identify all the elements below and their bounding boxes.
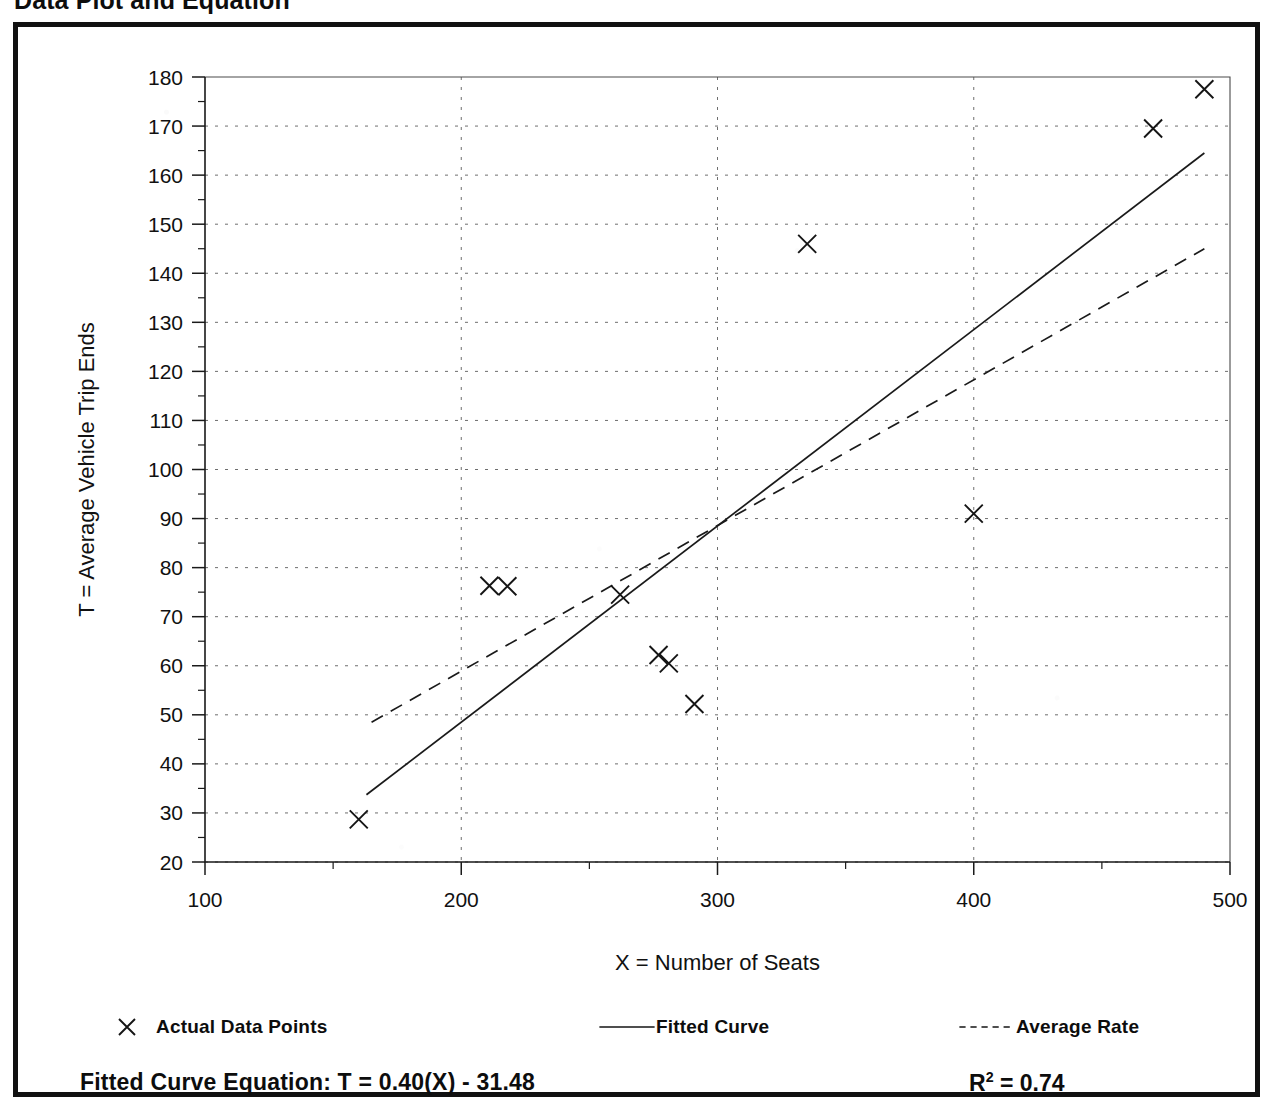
series-line <box>372 249 1205 722</box>
data-point-marker <box>798 235 816 253</box>
y-tick-label: 50 <box>160 703 183 726</box>
y-tick-label: 40 <box>160 752 183 775</box>
scatter-plot-canvas: 2030405060708090100110120130140150160170… <box>18 27 1255 1012</box>
y-tick-label: 20 <box>160 851 183 874</box>
x-tick-label: 300 <box>700 888 735 911</box>
horizontal-gridlines <box>205 126 1230 862</box>
data-point-marker <box>1144 120 1162 138</box>
legend-label-fitted-curve: Fitted Curve <box>656 1016 769 1038</box>
fitted-curve-equation-text: Fitted Curve Equation: T = 0.40(X) - 31.… <box>80 1069 535 1096</box>
legend-item-actual-data-points: Actual Data Points <box>98 1005 327 1049</box>
legend-label-actual-data-points: Actual Data Points <box>156 1016 327 1038</box>
chart-legend: Actual Data Points Fitted Curve Average … <box>18 1005 1255 1049</box>
y-axis-tick-labels: 2030405060708090100110120130140150160170… <box>148 66 183 874</box>
data-point-marker <box>350 810 368 828</box>
y-tick-label: 170 <box>148 115 183 138</box>
data-point-marker <box>685 695 703 713</box>
x-axis-title: X = Number of Seats <box>615 950 820 975</box>
page-title: Data Plot and Equation <box>14 0 290 15</box>
legend-label-average-rate: Average Rate <box>1016 1016 1139 1038</box>
solid-line-icon <box>598 1020 656 1034</box>
x-axis-tick-labels: 100200300400500 <box>187 888 1247 911</box>
y-tick-label: 120 <box>148 360 183 383</box>
dashed-line-icon <box>958 1020 1016 1034</box>
x-tick-label: 500 <box>1212 888 1247 911</box>
x-tick-label: 200 <box>444 888 479 911</box>
data-point-marker <box>498 577 516 595</box>
y-axis-title: T = Average Vehicle Trip Ends <box>74 322 99 617</box>
y-tick-label: 30 <box>160 801 183 824</box>
y-tick-label: 130 <box>148 311 183 334</box>
figure-frame: 2030405060708090100110120130140150160170… <box>13 22 1260 1097</box>
y-tick-label: 160 <box>148 164 183 187</box>
legend-item-average-rate: Average Rate <box>958 1005 1139 1049</box>
x-axis-ticks <box>205 862 1230 875</box>
y-tick-label: 110 <box>150 409 183 432</box>
x-tick-label: 100 <box>187 888 222 911</box>
legend-item-fitted-curve: Fitted Curve <box>598 1005 769 1049</box>
series-actual-data-points <box>350 80 1214 828</box>
footer-equation-row: Fitted Curve Equation: T = 0.40(X) - 31.… <box>18 1063 1255 1105</box>
series-fitted-curve <box>366 153 1204 795</box>
y-tick-label: 80 <box>160 556 183 579</box>
y-tick-label: 150 <box>148 213 183 236</box>
r-squared-prefix: R <box>969 1070 986 1096</box>
data-point-marker <box>650 646 668 664</box>
y-tick-label: 70 <box>160 605 183 628</box>
y-tick-label: 100 <box>148 458 183 481</box>
y-tick-label: 90 <box>160 507 183 530</box>
r-squared-value: R2 = 0.74 <box>969 1069 1065 1097</box>
data-point-marker <box>660 654 678 672</box>
r-squared-suffix: = 0.74 <box>994 1070 1065 1096</box>
y-tick-label: 180 <box>148 66 183 89</box>
y-tick-label: 60 <box>160 654 183 677</box>
data-point-marker <box>480 577 498 595</box>
y-axis-ticks <box>192 77 205 862</box>
data-point-marker <box>1195 80 1213 98</box>
series-average-rate <box>372 249 1205 722</box>
y-tick-label: 140 <box>148 262 183 285</box>
x-tick-label: 400 <box>956 888 991 911</box>
r-squared-exponent: 2 <box>986 1069 994 1085</box>
x-marker-icon <box>98 1015 156 1039</box>
series-line <box>366 153 1204 795</box>
